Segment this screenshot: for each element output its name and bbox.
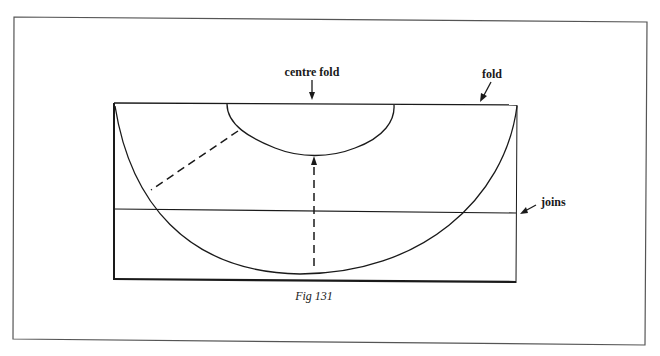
joins-line	[114, 209, 516, 213]
neck-curve	[227, 104, 394, 156]
dashed-radius-diagonal	[151, 131, 238, 190]
fabric-rectangle	[113, 103, 517, 283]
arrow-diagonal-icon	[480, 93, 487, 102]
pattern-diagram: centre fold fold joins Fig 131	[0, 0, 660, 356]
label-fold: fold	[482, 67, 502, 81]
label-centre-fold: centre fold	[285, 65, 340, 79]
arrow-left-icon	[520, 207, 528, 214]
label-joins: joins	[540, 195, 566, 209]
arrow-up-icon	[311, 156, 317, 165]
arrow-down-icon	[309, 92, 315, 100]
hem-curve	[115, 106, 517, 274]
figure-caption: Fig 131	[294, 289, 333, 303]
